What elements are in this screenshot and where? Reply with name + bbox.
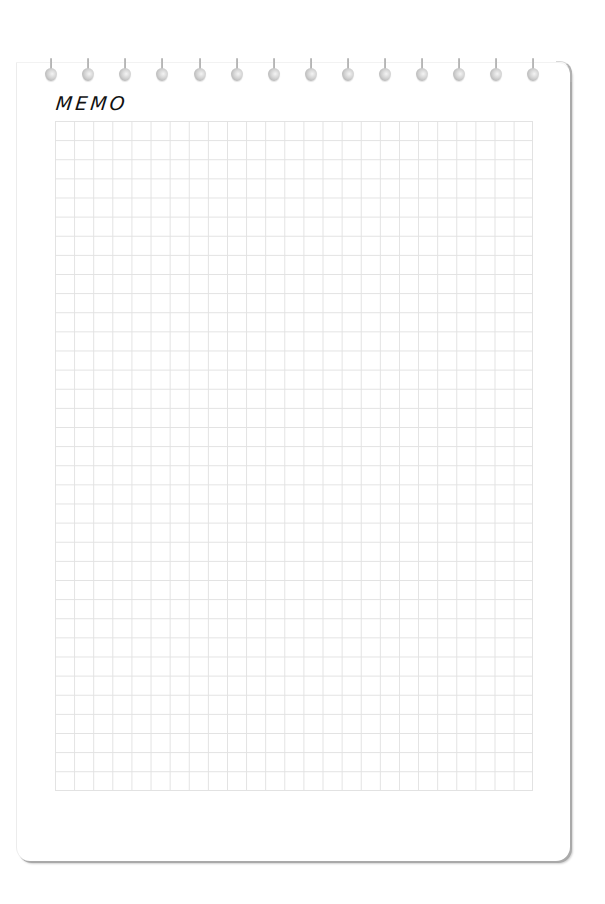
ring-hole <box>156 68 168 81</box>
binding-ring-icon <box>526 56 540 86</box>
binding-ring-icon <box>378 56 392 86</box>
binding-ring-icon <box>81 56 95 86</box>
ring-hole <box>527 68 539 81</box>
ring-hole <box>45 68 57 81</box>
binding-ring-icon <box>452 56 466 86</box>
ring-hole <box>82 68 94 81</box>
spiral-binding <box>0 56 605 86</box>
ring-hole <box>268 68 280 81</box>
binding-ring-icon <box>304 56 318 86</box>
grid-writing-area[interactable] <box>55 121 533 791</box>
binding-ring-icon <box>118 56 132 86</box>
ring-hole <box>379 68 391 81</box>
binding-ring-icon <box>193 56 207 86</box>
binding-ring-icon <box>489 56 503 86</box>
ring-hole <box>490 68 502 81</box>
memo-title: MEMO <box>55 92 129 114</box>
ring-hole <box>305 68 317 81</box>
binding-ring-icon <box>155 56 169 86</box>
binding-ring-icon <box>267 56 281 86</box>
ring-hole <box>342 68 354 81</box>
ring-hole <box>119 68 131 81</box>
binding-ring-icon <box>230 56 244 86</box>
binding-ring-icon <box>44 56 58 86</box>
binding-ring-icon <box>341 56 355 86</box>
binding-ring-icon <box>415 56 429 86</box>
ring-hole <box>453 68 465 81</box>
ring-hole <box>194 68 206 81</box>
ring-hole <box>416 68 428 81</box>
ring-hole <box>231 68 243 81</box>
